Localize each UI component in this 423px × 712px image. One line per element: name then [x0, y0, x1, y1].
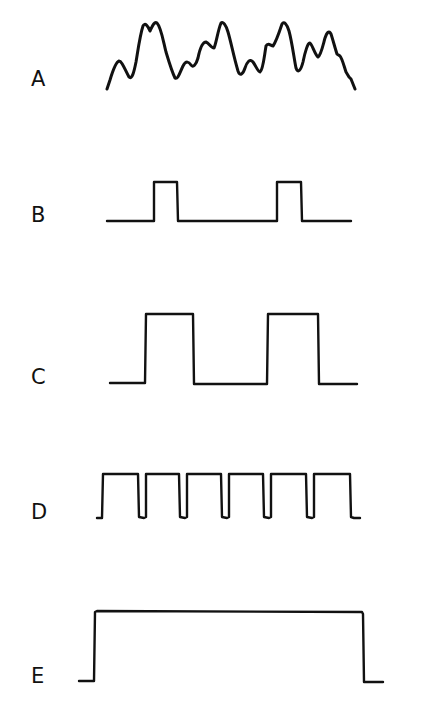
trace-e-waveform — [79, 611, 383, 682]
trace-a-waveform — [107, 22, 355, 89]
trace-c-waveform — [110, 314, 357, 384]
waveform-canvas — [0, 0, 423, 712]
trace-d-waveform — [97, 474, 360, 518]
trace-b-waveform — [107, 182, 351, 221]
waveform-figure: A B C D E — [0, 0, 423, 712]
